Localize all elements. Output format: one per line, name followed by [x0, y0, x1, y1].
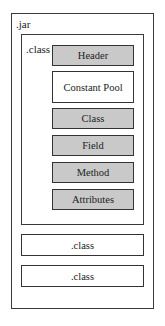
field-segment: Field — [52, 135, 134, 156]
class-file-box: .class — [21, 234, 144, 256]
attributes-segment: Attributes — [52, 189, 134, 210]
constant-pool-segment: Constant Pool — [52, 71, 134, 103]
jar-label: .jar — [16, 19, 30, 30]
class-file-box: .class — [21, 265, 144, 287]
class-segment: Class — [52, 108, 134, 129]
class-label: .class — [26, 44, 50, 55]
header-segment: Header — [52, 45, 134, 66]
method-segment: Method — [52, 162, 134, 183]
